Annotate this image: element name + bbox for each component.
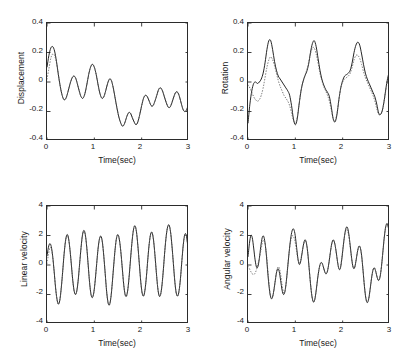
plot-area-linear-velocity	[46, 205, 188, 323]
ytick-angular-velocity-3: -2	[223, 287, 244, 296]
ytick-linear-velocity-0: 4	[26, 200, 43, 209]
ytick-displacement-2: 0	[20, 75, 43, 84]
ytick-linear-velocity-4: -4	[22, 316, 43, 325]
xtick-angular-velocity-0: 0	[239, 325, 255, 334]
plot-curves-linear-velocity	[47, 206, 188, 323]
xtick-angular-velocity-2: 2	[333, 325, 349, 334]
ytick-displacement-3: -0.2	[20, 104, 43, 113]
ytick-displacement-4: -0.4	[20, 133, 43, 142]
plot-curves-rotation	[248, 23, 389, 140]
xtick-rotation-1: 1	[286, 142, 302, 151]
axis-label-x-displacement: Time(sec)	[67, 155, 167, 165]
xtick-angular-velocity-1: 1	[286, 325, 302, 334]
subplot-linear-velocity: Linear velocity 4 2 0 -2 -4 0 1 2 3 Time…	[0, 178, 203, 357]
axis-label-x-rotation: Time(sec)	[268, 155, 368, 165]
figure-four-subplots: Displacement 0.4 0.2 0 -0.2 -0.4 0 1 2 3…	[0, 0, 405, 357]
ytick-displacement-1: 0.2	[20, 46, 43, 55]
plot-area-rotation	[247, 22, 389, 140]
ytick-rotation-2: 0	[221, 75, 244, 84]
xtick-linear-velocity-1: 1	[85, 325, 101, 334]
ytick-rotation-0: 0.4	[221, 17, 244, 26]
plot-curves-angular-velocity	[248, 206, 389, 323]
xtick-linear-velocity-0: 0	[38, 325, 54, 334]
xtick-displacement-3: 3	[180, 142, 196, 151]
subplot-displacement: Displacement 0.4 0.2 0 -0.2 -0.4 0 1 2 3…	[0, 0, 203, 178]
subplot-angular-velocity: Angular velocity 4 2 0 -2 -4 0 1 2 3 Tim…	[203, 178, 405, 357]
xtick-rotation-2: 2	[333, 142, 349, 151]
xtick-displacement-1: 1	[85, 142, 101, 151]
xtick-linear-velocity-2: 2	[132, 325, 148, 334]
subplot-rotation: Rotation 0.4 0.2 0 -0.2 -0.4 0 1 2 3 Tim…	[203, 0, 405, 178]
ytick-angular-velocity-4: -4	[223, 316, 244, 325]
ytick-angular-velocity-2: 0	[227, 258, 244, 267]
axis-label-x-linear-velocity: Time(sec)	[67, 338, 167, 348]
plot-area-angular-velocity	[247, 205, 389, 323]
ytick-linear-velocity-3: -2	[22, 287, 43, 296]
xtick-rotation-0: 0	[239, 142, 255, 151]
xtick-linear-velocity-3: 3	[180, 325, 196, 334]
ytick-rotation-1: 0.2	[221, 46, 244, 55]
plot-curves-displacement	[47, 23, 188, 140]
ytick-angular-velocity-0: 4	[227, 200, 244, 209]
ytick-angular-velocity-1: 2	[227, 229, 244, 238]
ytick-rotation-3: -0.2	[221, 104, 244, 113]
xtick-angular-velocity-3: 3	[381, 325, 397, 334]
axis-label-x-angular-velocity: Time(sec)	[268, 338, 368, 348]
xtick-displacement-2: 2	[132, 142, 148, 151]
ytick-rotation-4: -0.4	[221, 133, 244, 142]
xtick-rotation-3: 3	[381, 142, 397, 151]
ytick-linear-velocity-1: 2	[26, 229, 43, 238]
xtick-displacement-0: 0	[38, 142, 54, 151]
ytick-linear-velocity-2: 0	[26, 258, 43, 267]
plot-area-displacement	[46, 22, 188, 140]
ytick-displacement-0: 0.4	[20, 17, 43, 26]
